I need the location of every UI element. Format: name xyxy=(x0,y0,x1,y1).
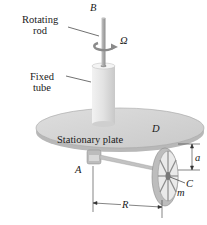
stationary-plate-label: Stationary plate xyxy=(57,134,123,145)
bearing-a xyxy=(87,150,101,164)
rotating-rod-label-line1: Rotating xyxy=(22,14,58,25)
point-a-label: A xyxy=(75,164,81,175)
fixed-tube xyxy=(92,63,115,127)
fixed-tube-label-line1: Fixed xyxy=(30,71,54,82)
tube-leader-line xyxy=(66,76,91,82)
omega-label: Ω xyxy=(120,35,128,46)
dimension-a-label: a xyxy=(195,152,200,163)
rotating-rod-label: Rotating rod xyxy=(22,14,58,36)
dimension-R xyxy=(93,166,162,218)
rod-leader-line xyxy=(68,27,99,36)
diagram-stage: Rotating rod Fixed tube Stationary plate… xyxy=(0,0,207,225)
stationary-plate xyxy=(36,108,204,152)
rotating-rod xyxy=(102,17,106,66)
mass-m-label: m xyxy=(177,187,185,198)
point-d-label: D xyxy=(152,123,160,134)
rotation-arrow-icon xyxy=(94,43,118,50)
fixed-tube-label-line2: tube xyxy=(30,82,54,93)
wheel xyxy=(152,148,178,206)
rotating-rod-label-line2: rod xyxy=(22,25,58,36)
point-c-label: C xyxy=(186,178,193,189)
point-b-label: B xyxy=(90,2,96,13)
fixed-tube-label: Fixed tube xyxy=(30,71,54,93)
dimension-r-label: R xyxy=(121,199,129,210)
